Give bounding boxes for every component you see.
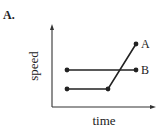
speed-time-diagram: A. speed time B A (0, 0, 164, 129)
axes (52, 28, 152, 107)
data-point (106, 87, 111, 92)
data-point (65, 68, 70, 73)
data-point (134, 42, 139, 47)
series-a-label: A (141, 37, 150, 51)
series-b-label: B (141, 63, 149, 77)
x-axis-label: time (92, 113, 115, 128)
series-b: B (65, 63, 149, 77)
x-axis-arrow-icon (150, 105, 156, 109)
y-axis-arrow-icon (50, 24, 54, 30)
panel-label: A. (3, 8, 15, 22)
y-axis-label: speed (26, 51, 41, 81)
series-a: A (65, 37, 150, 91)
data-point (65, 87, 70, 92)
data-point (134, 68, 139, 73)
